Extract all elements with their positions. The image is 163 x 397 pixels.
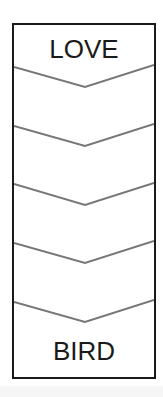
end-word: BIRD (14, 336, 154, 367)
footer-band (0, 386, 163, 397)
blank-rung-2[interactable] (14, 148, 154, 184)
chevron-dividers (14, 25, 154, 377)
blank-rung-4[interactable] (14, 265, 154, 301)
chevron-1 (14, 65, 154, 87)
chevron-2 (14, 124, 154, 146)
blank-rung-1[interactable] (14, 89, 154, 125)
word-ladder: LOVE BIRD (12, 23, 156, 379)
chevron-4 (14, 241, 154, 263)
chevron-5 (14, 300, 154, 322)
chevron-3 (14, 183, 154, 205)
blank-rung-3[interactable] (14, 207, 154, 243)
